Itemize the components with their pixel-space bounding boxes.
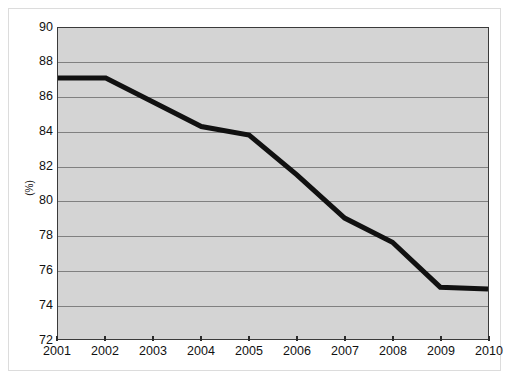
x-axis-tick-mark <box>56 336 58 341</box>
x-axis-tick-mark <box>296 336 298 341</box>
y-axis-tick-label: 82 <box>17 160 53 173</box>
y-axis-tick-labels: 72747678808284868890 <box>11 27 53 340</box>
x-axis-tick-mark <box>152 336 154 341</box>
chart-figure: (%) 72747678808284868890 200120022003200… <box>0 0 509 379</box>
x-axis-tick-mark <box>440 336 442 341</box>
y-axis-tick-label: 84 <box>17 125 53 138</box>
x-axis-tick-mark <box>248 336 250 341</box>
x-axis-tick-mark <box>392 336 394 341</box>
x-axis-tick-mark <box>200 336 202 341</box>
x-axis-tick-labels: 2001200220032004200520062007200820092010 <box>57 345 489 367</box>
y-axis-tick-label: 88 <box>17 55 53 68</box>
x-axis-tick-marks <box>57 335 489 341</box>
x-axis-tick-label: 2010 <box>461 345 509 358</box>
x-axis-tick-mark <box>344 336 346 341</box>
plot-area <box>57 27 489 340</box>
y-axis-tick-label: 78 <box>17 229 53 242</box>
y-axis-tick-label: 86 <box>17 90 53 103</box>
y-axis-tick-label: 90 <box>17 21 53 34</box>
y-axis-tick-label: 74 <box>17 299 53 312</box>
x-axis-tick-mark <box>104 336 106 341</box>
x-axis-tick-mark <box>488 336 490 341</box>
y-axis-tick-label: 80 <box>17 194 53 207</box>
data-series-line <box>58 28 488 339</box>
y-axis-tick-label: 76 <box>17 264 53 277</box>
